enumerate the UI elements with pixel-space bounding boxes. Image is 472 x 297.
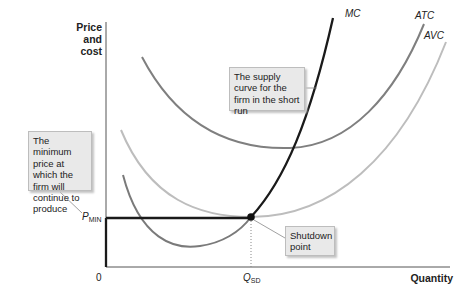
mc-curve-supply: [251, 18, 333, 217]
p-min-label: PMIN: [82, 211, 102, 224]
x-axis-title: Quantity: [405, 272, 453, 284]
y-axis-title-line-1: Price: [58, 21, 102, 33]
y-axis-title-line-3: cost: [58, 45, 102, 57]
avc-label: AVC: [424, 30, 444, 42]
min-price-callout: The minimum price at which the firm will…: [28, 131, 92, 191]
atc-label: ATC: [415, 10, 434, 22]
shutdown-point-callout: Shutdown point: [285, 226, 335, 256]
shutdown-point-marker: [247, 213, 255, 221]
supply-curve-callout: The supply curve for the firm in the sho…: [229, 67, 305, 111]
p-min-main: P: [82, 211, 89, 222]
mc-curve-lower: [123, 175, 251, 247]
q-sd-main: Q: [243, 272, 251, 283]
origin-label: 0: [96, 272, 102, 284]
y-axis-title: Price and cost: [58, 21, 102, 57]
q-sd-label: QSD: [243, 272, 261, 285]
q-sd-sub: SD: [251, 277, 261, 284]
y-axis-title-line-2: and: [58, 33, 102, 45]
p-min-sub: MIN: [89, 216, 102, 223]
shutdown-callout-leader: [254, 220, 285, 238]
mc-label: MC: [345, 8, 361, 20]
